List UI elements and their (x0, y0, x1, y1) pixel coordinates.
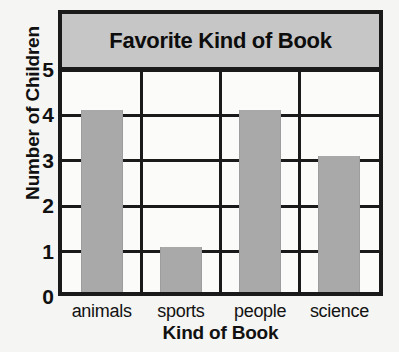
y-tick-label: 2 (28, 196, 54, 216)
vertical-gridline (140, 70, 143, 292)
x-tick-label-sports: sports (141, 299, 220, 323)
plot-area (62, 70, 379, 292)
chart-title: Favorite Kind of Book (109, 28, 331, 54)
x-tick-label-science: science (300, 299, 379, 323)
bar-science (318, 156, 360, 292)
bar-people (239, 110, 281, 292)
x-axis-tick-labels: animalssportspeoplescience (58, 299, 383, 323)
y-tick-label: 4 (28, 105, 54, 125)
vertical-gridline (219, 70, 222, 292)
bar-chart-figure: Number of Children 012345 Favorite Kind … (0, 0, 399, 352)
x-axis-title: Kind of Book (58, 322, 383, 344)
y-axis-tick-labels: 012345 (28, 60, 54, 304)
vertical-gridline (298, 70, 301, 292)
y-tick-label: 1 (28, 242, 54, 262)
x-tick-label-people: people (221, 299, 300, 323)
y-tick-label: 0 (28, 287, 54, 307)
chart-title-banner: Favorite Kind of Book (62, 14, 379, 70)
bar-sports (160, 247, 202, 292)
chart-frame: Favorite Kind of Book (58, 10, 383, 296)
y-tick-label: 5 (28, 60, 54, 80)
y-tick-label: 3 (28, 151, 54, 171)
x-tick-label-animals: animals (62, 299, 141, 323)
bar-animals (81, 110, 123, 292)
